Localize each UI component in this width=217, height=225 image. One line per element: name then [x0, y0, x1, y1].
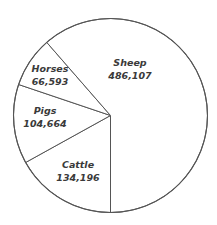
label-sheep-name: Sheep [113, 57, 146, 68]
label-horses-value: 66,593 [32, 76, 69, 87]
label-cattle-name: Cattle [62, 159, 95, 170]
label-pigs-name: Pigs [34, 105, 57, 116]
pie-chart: Sheep 486,107 Horses 66,593 Pigs 104,664… [0, 0, 217, 225]
label-pigs-value: 104,664 [23, 118, 67, 129]
label-sheep-value: 486,107 [107, 70, 152, 81]
label-horses-name: Horses [32, 63, 69, 74]
label-cattle-value: 134,196 [56, 172, 100, 183]
